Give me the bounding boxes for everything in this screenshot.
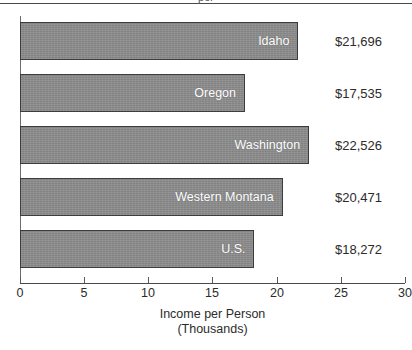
x-axis-tick	[405, 277, 406, 283]
bar-label: U.S.	[221, 242, 253, 256]
bar-washington: Washington	[20, 126, 309, 164]
bar-us: U.S.	[20, 230, 254, 268]
x-axis-tick	[341, 277, 342, 283]
x-axis-tick	[148, 277, 149, 283]
bar-oregon: Oregon	[20, 74, 245, 112]
x-axis-line	[20, 283, 405, 284]
bar-label: Western Montana	[175, 190, 281, 204]
x-axis-title: Income per Person (Thousands)	[20, 307, 405, 337]
value-label-oregon: $17,535	[335, 86, 382, 101]
x-axis-tick-label: 20	[270, 286, 284, 300]
value-label-washington: $22,526	[335, 138, 382, 153]
x-axis-tick	[277, 277, 278, 283]
x-axis-tick-label: 30	[398, 286, 412, 300]
x-axis-title-line-1: Income per Person	[20, 307, 405, 322]
x-axis-tick	[84, 277, 85, 283]
x-axis-tick-label: 10	[141, 286, 155, 300]
bar-chart: Idaho $21,696 Oregon $17,535 Washington …	[0, 0, 412, 350]
x-axis-tick	[20, 277, 21, 283]
x-axis-tick-label: 5	[81, 286, 88, 300]
value-label-idaho: $21,696	[335, 34, 382, 49]
value-label-western-montana: $20,471	[335, 190, 382, 205]
x-axis-tick-label: 25	[334, 286, 348, 300]
x-axis-tick	[212, 277, 213, 283]
bar-label: Idaho	[258, 34, 297, 48]
value-label-us: $18,272	[335, 242, 382, 257]
bar-label: Washington	[235, 138, 309, 152]
x-axis-tick-label: 15	[205, 286, 219, 300]
bar-western-montana: Western Montana	[20, 178, 283, 216]
x-axis-tick-label: 0	[17, 286, 24, 300]
bar-label: Oregon	[194, 86, 244, 100]
bar-idaho: Idaho	[20, 22, 298, 60]
x-axis-title-line-2: (Thousands)	[20, 322, 405, 337]
